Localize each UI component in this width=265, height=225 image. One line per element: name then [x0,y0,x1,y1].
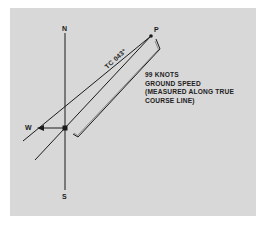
annotation-line-3: (MEASURED ALONG TRUE [145,88,234,97]
annotation-line-2: GROUND SPEED [145,80,234,89]
point-p-label: P [154,26,159,33]
wind-label: W [25,124,32,131]
south-label: S [62,193,67,200]
north-label: N [62,25,67,32]
annotation-line-1: 99 KNOTS [145,71,234,80]
wind-triangle-diagram [0,0,265,225]
true-course-line [35,36,151,160]
origin-point [63,126,68,131]
ground-speed-annotation: 99 KNOTS GROUND SPEED (MEASURED ALONG TR… [145,71,234,105]
wind-arrowhead-icon [37,125,44,131]
annotation-line-4: COURSE LINE) [145,97,234,106]
point-p-dot [149,34,153,38]
